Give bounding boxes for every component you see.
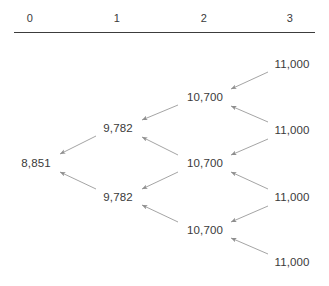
tree-node-n1u: 9,782 [102,122,133,134]
tree-edge [142,172,178,189]
tree-edge [142,205,178,222]
tree-edge [231,139,268,155]
tree-node-n0: 8,851 [20,157,51,169]
tree-node-n3c: 11,000 [274,191,311,203]
tree-node-n2m: 10,700 [186,157,224,169]
tree-edge [231,206,268,222]
tree-node-n3b: 11,000 [274,124,311,136]
tree-edges [0,0,329,286]
tree-edge [231,106,268,122]
tree-node-n2u: 10,700 [186,91,224,103]
tree-node-n1d: 9,782 [102,191,133,203]
tree-edge [60,172,96,189]
tree-edge [60,136,96,154]
tree-node-n3d: 11,000 [274,256,311,268]
tree-edge [142,137,178,155]
tree-node-n2d: 10,700 [186,224,224,236]
tree-edge [231,238,268,254]
binomial-tree-diagram: 0 1 2 3 8,8519,7829,78210,70010,70010,70… [0,0,329,286]
tree-edge [142,105,178,120]
tree-node-n3a: 11,000 [274,58,311,70]
tree-edge [231,72,268,89]
tree-edge [231,172,268,189]
